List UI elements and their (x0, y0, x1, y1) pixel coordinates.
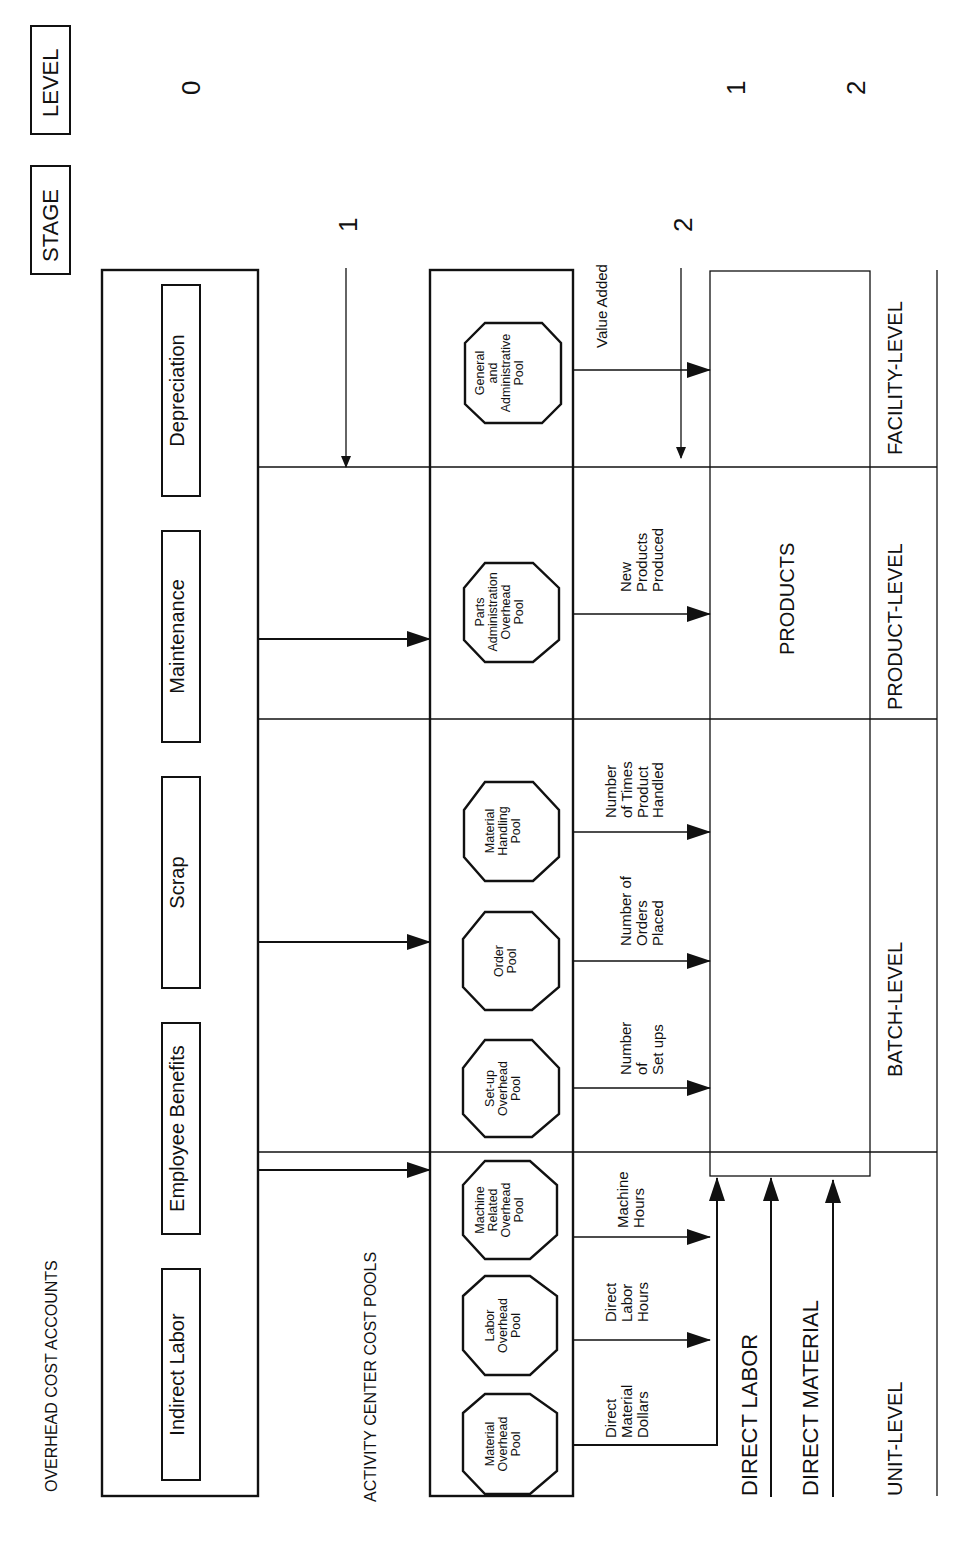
products-box (710, 271, 870, 1176)
account-scrap: Scrap (167, 777, 188, 988)
driver-machine-hours: MachineHours (615, 1171, 647, 1228)
pool-label-machine-related: MachineRelatedOverheadPool (474, 1161, 527, 1259)
pool-label-general-administrative: GeneralandAdministrativePool (474, 323, 527, 423)
account-employee-benefits: Employee Benefits (167, 1023, 188, 1234)
level-marker-0: 0 (178, 81, 205, 95)
pool-label-setup-overhead: Set-upOverheadPool (484, 1040, 523, 1137)
account-depreciation: Depreciation (167, 285, 188, 496)
stage-label: STAGE (39, 189, 62, 262)
level-header-box: LEVEL (30, 25, 71, 135)
stage-marker-2: 2 (670, 218, 697, 232)
level-unit: UNIT-LEVEL (885, 1382, 906, 1496)
level-facility: FACILITY-LEVEL (885, 301, 906, 455)
products-label: PRODUCTS (777, 543, 798, 655)
driver-value-added: Value Added (594, 264, 610, 348)
pool-label-material-overhead: MaterialOverheadPool (484, 1394, 523, 1494)
level-batch: BATCH-LEVEL (885, 942, 906, 1077)
account-indirect-labor: Indirect Labor (167, 1269, 188, 1480)
pool-label-order: OrderPool (493, 912, 519, 1010)
driver-new-products-produced: NewProductsProduced (618, 528, 665, 592)
pool-label-labor-overhead: LaborOverheadPool (484, 1276, 523, 1375)
pool-label-material-handling: MaterialHandlingPool (484, 781, 523, 881)
level-marker-2: 2 (843, 81, 870, 95)
driver-direct-labor-hours: DirectLaborHours (603, 1282, 650, 1322)
driver-set-ups: NumberofSet ups (618, 1022, 665, 1075)
pool-label-parts-administration: PartsAdministrationOverheadPool (474, 562, 527, 662)
level-product: PRODUCT-LEVEL (885, 543, 906, 710)
level-label: LEVEL (39, 49, 62, 118)
activity-center-cost-pools-title: ACTIVITY CENTER COST POOLS (363, 1252, 380, 1502)
overhead-cost-accounts-title: OVERHEAD COST ACCOUNTS (44, 1260, 61, 1492)
account-maintenance: Maintenance (167, 531, 188, 742)
stage-marker-1: 1 (335, 218, 362, 232)
driver-times-product-handled: Numberof TimesProductHandled (603, 761, 666, 818)
direct-labor-label: DIRECT LABOR (738, 1334, 761, 1496)
stage-header-box: STAGE (30, 165, 71, 275)
driver-direct-material-dollars: DirectMaterialDollars (603, 1385, 650, 1438)
direct-material-label: DIRECT MATERIAL (799, 1300, 822, 1496)
driver-orders-placed: Number ofOrdersPlaced (618, 876, 665, 946)
level-marker-1: 1 (723, 81, 750, 95)
